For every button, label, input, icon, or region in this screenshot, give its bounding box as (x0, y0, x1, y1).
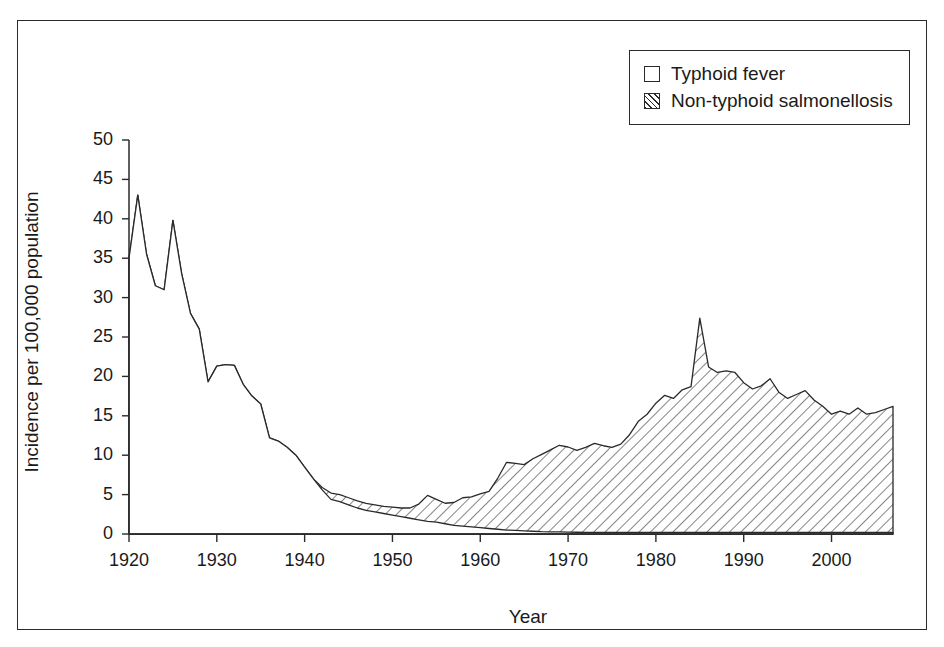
y-tick-label-0: 0 (73, 523, 113, 544)
y-tick-label-5: 5 (73, 484, 113, 505)
x-tick-label-1930: 1930 (182, 550, 252, 571)
x-axis-title: Year (146, 606, 910, 628)
legend-item-typhoid-fever: Typhoid fever (644, 60, 893, 87)
x-tick-label-1950: 1950 (357, 550, 427, 571)
x-tick-label-2000: 2000 (797, 550, 867, 571)
y-tick-label-50: 50 (73, 129, 113, 150)
figure-bottom-margin (0, 632, 944, 647)
y-tick-label-35: 35 (73, 247, 113, 268)
y-tick-label-40: 40 (73, 208, 113, 229)
legend-item-non-typhoid-salmonellosis: Non-typhoid salmonellosis (644, 87, 893, 114)
figure-frame: Incidence per 100,000 population Year 05… (17, 20, 927, 630)
x-tick-label-1970: 1970 (533, 550, 603, 571)
y-axis-title: Incidence per 100,000 population (21, 122, 43, 542)
x-tick-label-1990: 1990 (709, 550, 779, 571)
legend-swatch-hatched-square (644, 93, 660, 109)
legend-label-non-typhoid-salmonellosis: Non-typhoid salmonellosis (671, 90, 893, 112)
y-tick-label-10: 10 (73, 444, 113, 465)
y-tick-label-25: 25 (73, 326, 113, 347)
x-tick-label-1940: 1940 (270, 550, 340, 571)
x-tick-label-1920: 1920 (94, 550, 164, 571)
chart-figure: Incidence per 100,000 population Year 05… (0, 0, 944, 647)
y-tick-label-15: 15 (73, 405, 113, 426)
x-tick-label-1980: 1980 (621, 550, 691, 571)
y-tick-label-30: 30 (73, 287, 113, 308)
legend-label-typhoid-fever: Typhoid fever (671, 63, 785, 85)
chart-legend: Typhoid fever Non-typhoid salmonellosis (629, 50, 910, 125)
y-tick-label-20: 20 (73, 365, 113, 386)
y-tick-label-45: 45 (73, 168, 113, 189)
x-tick-label-1960: 1960 (445, 550, 515, 571)
legend-swatch-white-square (644, 66, 660, 82)
